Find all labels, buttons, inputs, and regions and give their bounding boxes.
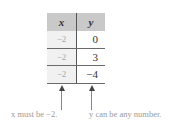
table-row: −2 3: [47, 49, 105, 67]
xy-table: x y −2 0 −2 3 −2 −4: [47, 13, 105, 84]
table-row: −2 −4: [47, 66, 105, 84]
cell-x: −2: [47, 66, 77, 83]
header-y: y: [77, 13, 105, 31]
cell-y: 3: [77, 49, 105, 66]
x-note: x must be −2.: [11, 109, 57, 119]
arrow-up-icon: [91, 89, 92, 110]
y-note: y can be any number.: [89, 109, 161, 119]
cell-y: 0: [77, 31, 105, 48]
table-header-row: x y: [47, 13, 105, 31]
cell-y: −4: [77, 66, 105, 83]
cell-x: −2: [47, 31, 77, 48]
table-row: −2 0: [47, 31, 105, 49]
cell-x: −2: [47, 49, 77, 66]
arrow-up-icon: [61, 89, 62, 110]
header-x: x: [47, 13, 77, 31]
